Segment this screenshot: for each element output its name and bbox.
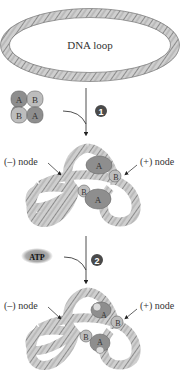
step-1-arrow: 1 [63,88,107,134]
negative-node-label: (–) node [4,300,38,312]
subunit-label: B [32,95,38,105]
subunit-label: B [83,333,88,342]
step-1-number: 1 [98,107,103,117]
dna-loop-label: DNA loop [67,39,113,51]
gate-opening-lower [96,347,104,354]
step-2-number: 2 [94,256,99,266]
subunit-label: A [96,161,103,171]
subunit-label: B [81,188,86,197]
negative-node-pointer [48,163,60,174]
negative-node-pointer [48,307,60,318]
positive-node-pointer [126,165,137,174]
atp-label: ATP [29,253,45,262]
dna-knot-stage-3: A B B A (–) node (+) node [4,292,175,365]
step-2-arrow: ATP 2 [21,236,103,282]
subunit-label: A [95,195,102,205]
gate-opening-upper [93,303,101,311]
positive-node-pointer [126,309,137,318]
positive-node-label: (+) node [140,156,175,168]
subunit-label: A [32,111,39,121]
subunit-label: A [16,95,23,105]
subunit-label: B [115,319,120,328]
dna-knot-stage-2: A B B A (–) node (+) node [4,148,175,222]
subunit-label: B [113,173,118,182]
diagram-canvas: DNA loop A B B A 1 A B B A (–) node [0,0,181,385]
dna-loop: DNA loop [1,9,180,82]
topoisomerase-complex: A B B A [11,91,43,123]
subunit-label: B [16,111,22,121]
positive-node-label: (+) node [140,300,175,312]
negative-node-label: (–) node [4,156,38,168]
subunit-label: A [101,311,107,320]
subunit-label: A [97,338,103,347]
